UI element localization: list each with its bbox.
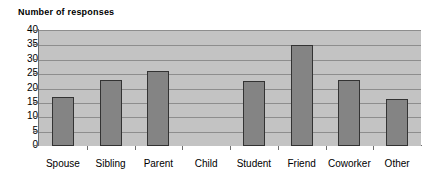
x-axis-category-label: Spouse [46,158,80,169]
x-axis-category-label: Coworker [328,158,371,169]
gridline [39,45,421,46]
bar-spouse [52,97,74,146]
x-axis-category-label: Sibling [96,158,126,169]
bar-parent [147,71,169,146]
bar-student [243,81,265,146]
x-axis-tick-mark [230,146,231,150]
x-axis-category-label: Friend [287,158,315,169]
y-axis-tick-mark [33,102,38,103]
x-axis-category-label: Other [385,158,410,169]
y-axis-tick-mark [33,131,38,132]
x-axis-tick-mark [278,146,279,150]
x-axis-tick-mark [182,146,183,150]
gridline [39,132,421,133]
bar-sibling [100,80,122,146]
gridline [39,89,421,90]
y-axis-tick-mark [33,44,38,45]
y-axis-tick-mark [33,145,38,146]
y-axis-labels: 4035302520151050 [14,25,38,145]
plot-area [39,30,421,146]
gridline [39,60,421,61]
bar-other [386,99,408,146]
x-axis-category-label: Parent [144,158,173,169]
gridline [39,74,421,75]
bar-friend [291,45,313,146]
x-axis-tick-mark [135,146,136,150]
x-axis-category-label: Child [195,158,218,169]
gridline [39,103,421,104]
y-axis-tick-mark [33,88,38,89]
x-axis-category-label: Student [237,158,271,169]
chart-title: Number of responses [18,7,114,17]
bar-chart: Number of responses 4035302520151050 Spo… [0,0,440,187]
y-axis-tick-mark [33,73,38,74]
y-axis-tick-mark [33,116,38,117]
y-axis-tick-mark [33,59,38,60]
x-axis-tick-mark [326,146,327,150]
x-axis-tick-mark [373,146,374,150]
bar-coworker [338,80,360,146]
x-axis-tick-mark [87,146,88,150]
gridline [39,117,421,118]
x-axis-labels: SpouseSiblingParentChildStudentFriendCow… [39,158,421,178]
y-axis-tick-mark [33,30,38,31]
